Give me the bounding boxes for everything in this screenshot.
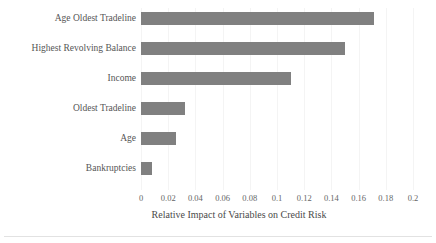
bar — [141, 72, 291, 85]
bar — [141, 132, 176, 145]
y-axis-category-label: Age Oldest Tradeline — [4, 13, 136, 24]
x-axis-title-text: Relative Impact of Variables on Credit R… — [152, 208, 327, 221]
bar-row — [141, 12, 374, 25]
bar — [141, 102, 185, 115]
x-axis-tick-label: 0 — [139, 193, 143, 204]
x-axis-tick-label: 0.16 — [351, 193, 366, 204]
x-axis-tick-label: 0.14 — [324, 193, 339, 204]
bar — [141, 12, 374, 25]
y-axis-category-labels: Age Oldest TradelineHighest Revolving Ba… — [0, 8, 136, 190]
bar — [141, 162, 152, 175]
bar-row — [141, 132, 176, 145]
x-axis-tick-label: 0.06 — [215, 193, 230, 204]
x-axis-tick-label: 0.1 — [272, 193, 283, 204]
bar-row — [141, 102, 185, 115]
x-axis-tick-labels: 00.020.040.060.080.10.120.140.160.180.2 — [141, 193, 413, 207]
x-axis-title: Relative Impact of Variables on Credit R… — [0, 208, 436, 221]
bar-chart-figure: Age Oldest TradelineHighest Revolving Ba… — [0, 0, 436, 243]
x-axis-tick-label: 0.02 — [161, 193, 176, 204]
x-axis-tick-label: 0.18 — [378, 193, 393, 204]
bar-row — [141, 42, 345, 55]
y-axis-category-label: Age — [4, 133, 136, 144]
x-axis-tick-label: 0.12 — [297, 193, 312, 204]
bar — [141, 42, 345, 55]
y-axis-category-label: Bankruptcies — [4, 163, 136, 174]
figure-bottom-rule — [4, 236, 432, 237]
x-axis-tick-label: 0.2 — [408, 193, 419, 204]
gridline — [413, 8, 414, 190]
bar-row — [141, 162, 152, 175]
x-axis-tick-label: 0.08 — [242, 193, 257, 204]
y-axis-category-label: Oldest Tradeline — [4, 103, 136, 114]
y-axis-category-label: Highest Revolving Balance — [4, 43, 136, 54]
bar-row — [141, 72, 291, 85]
chart-bars — [141, 8, 413, 190]
x-axis-tick-label: 0.04 — [188, 193, 203, 204]
y-axis-category-label: Income — [4, 73, 136, 84]
